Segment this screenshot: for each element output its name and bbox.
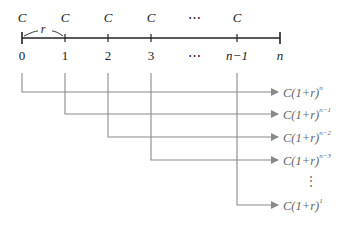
future-value-n-2: C(1+r)n−2 xyxy=(283,129,331,146)
period-ellipsis: ⋯ xyxy=(188,48,201,64)
payment-label-1: C xyxy=(61,10,70,26)
vertical-ellipsis: ⋮ xyxy=(305,174,317,189)
period-label-n: n xyxy=(277,48,284,64)
period-label-0: 0 xyxy=(19,48,26,64)
period-label-1: 1 xyxy=(62,48,69,64)
period-label-n-1: n−1 xyxy=(226,48,248,64)
period-label-2: 2 xyxy=(105,48,112,64)
future-value-n-3: C(1+r)n−3 xyxy=(283,152,331,169)
future-value-1: C(1+r)1 xyxy=(283,197,323,214)
connector-lines xyxy=(22,73,278,205)
timeline-axis xyxy=(22,32,280,44)
payment-label-0: C xyxy=(18,10,27,26)
payment-label-3: C xyxy=(147,10,156,26)
payment-ellipsis: ⋯ xyxy=(188,10,201,26)
payment-label-n-1: C xyxy=(233,10,242,26)
future-value-n: C(1+r)n xyxy=(283,84,323,101)
period-label-3: 3 xyxy=(148,48,155,64)
rate-label: r xyxy=(41,22,46,37)
payment-label-2: C xyxy=(104,10,113,26)
future-value-n-1: C(1+r)n−1 xyxy=(283,106,331,123)
